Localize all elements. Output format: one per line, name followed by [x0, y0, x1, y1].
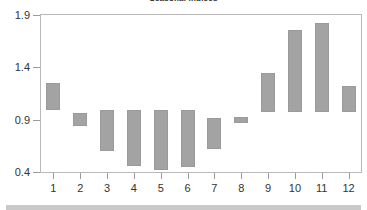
x-tick-mark-9 [268, 173, 269, 179]
bar-10 [288, 30, 302, 113]
chart-figure: Seasonal indices 0.40.91.41.9 1234567891… [0, 0, 367, 210]
bar-2 [73, 113, 87, 126]
bar-6 [181, 110, 195, 167]
footer-band [6, 205, 361, 210]
x-tick-label-12: 12 [342, 182, 354, 194]
x-tick-mark-10 [295, 173, 296, 179]
bar-12 [342, 86, 356, 112]
x-tick-label-1: 1 [50, 182, 56, 194]
bar-7 [207, 118, 221, 149]
x-tick-mark-3 [107, 173, 108, 179]
x-tick-label-3: 3 [104, 182, 110, 194]
bar-4 [127, 110, 141, 165]
x-tick-label-10: 10 [289, 182, 301, 194]
x-tick-mark-6 [188, 173, 189, 179]
x-tick-mark-8 [241, 173, 242, 179]
bar-9 [261, 73, 275, 113]
x-tick-mark-11 [322, 173, 323, 179]
x-tick-mark-1 [53, 173, 54, 179]
y-tick-mark-0.4 [33, 172, 40, 173]
x-tick-label-2: 2 [77, 182, 83, 194]
plot-area [40, 14, 362, 173]
x-tick-label-11: 11 [316, 182, 327, 194]
x-tick-mark-7 [214, 173, 215, 179]
x-tick-label-8: 8 [238, 182, 244, 194]
y-axis: 0.40.91.41.9 [0, 0, 40, 210]
x-tick-mark-2 [80, 173, 81, 179]
chart-title: Seasonal indices [0, 0, 367, 2]
y-tick-label-0.4: 0.4 [15, 166, 30, 178]
bar-1 [46, 83, 60, 110]
x-tick-label-4: 4 [131, 182, 137, 194]
y-tick-label-1.4: 1.4 [15, 61, 30, 73]
y-tick-label-0.9: 0.9 [15, 114, 30, 126]
x-tick-mark-12 [349, 173, 350, 179]
bar-3 [100, 110, 114, 151]
x-tick-label-7: 7 [211, 182, 217, 194]
x-tick-mark-4 [134, 173, 135, 179]
bar-11 [315, 23, 329, 112]
x-tick-label-9: 9 [265, 182, 271, 194]
y-tick-mark-1.4 [33, 67, 40, 68]
x-tick-mark-5 [161, 173, 162, 179]
bar-8 [234, 117, 248, 123]
x-axis: 123456789101112 [40, 173, 362, 203]
y-tick-label-1.9: 1.9 [15, 9, 30, 21]
bar-5 [154, 110, 168, 170]
y-tick-mark-0.9 [33, 120, 40, 121]
x-tick-label-5: 5 [158, 182, 164, 194]
x-tick-label-6: 6 [185, 182, 191, 194]
y-tick-mark-1.9 [33, 15, 40, 16]
